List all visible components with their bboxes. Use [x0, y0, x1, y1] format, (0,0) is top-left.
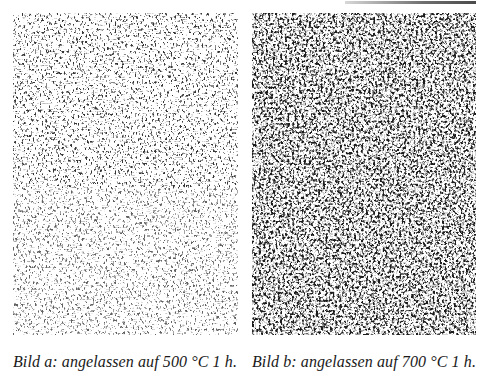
- caption-a: Bild a: angelassen auf 500 °C 1 h.: [13, 353, 237, 371]
- micrograph-a: [13, 13, 238, 335]
- caption-b: Bild b: angelassen auf 700 °C 1 h.: [252, 353, 476, 371]
- micrograph-b: [252, 13, 476, 335]
- micrograph-a-texture: [13, 13, 238, 335]
- micrograph-b-texture: [252, 13, 476, 335]
- page-top-rule: [345, 1, 476, 4]
